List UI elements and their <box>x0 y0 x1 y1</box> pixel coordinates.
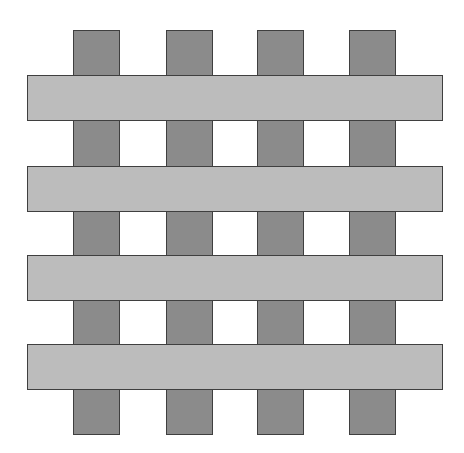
weft-strip <box>27 166 443 212</box>
weft-strip <box>27 255 443 301</box>
weft-strip <box>27 75 443 121</box>
weave-diagram: Plain weave pattern <box>0 0 464 453</box>
diagram-title: Plain weave pattern <box>0 0 1 1</box>
weft-strip <box>27 344 443 390</box>
